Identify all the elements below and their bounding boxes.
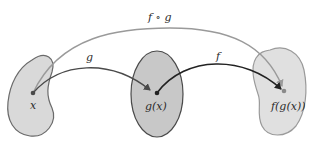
label-gx: g(x) bbox=[145, 100, 167, 113]
label-arrow-g: g bbox=[86, 51, 93, 64]
label-arrow-fog: f ∘ g bbox=[147, 11, 172, 24]
label-x: x bbox=[30, 99, 37, 112]
set-range-f bbox=[253, 48, 306, 135]
label-arrow-f: f bbox=[215, 50, 222, 63]
composition-diagram: x g(x) f(g(x)) g f f ∘ g bbox=[0, 0, 317, 148]
point-gx bbox=[155, 91, 160, 96]
label-fgx: f(g(x)) bbox=[270, 100, 305, 113]
point-fgx bbox=[282, 89, 287, 94]
point-x bbox=[31, 91, 36, 96]
set-domain-g bbox=[8, 56, 54, 137]
